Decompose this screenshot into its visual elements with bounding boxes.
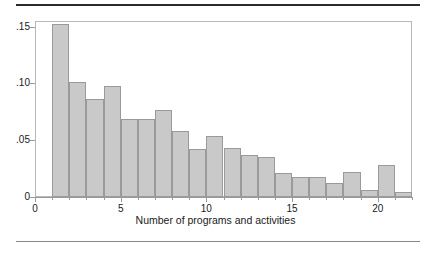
histogram-bar	[121, 119, 138, 197]
x-axis-minor-tick	[395, 197, 396, 200]
histogram-bar	[309, 177, 326, 197]
y-axis-tick-mark	[30, 83, 35, 84]
histogram-bar	[241, 155, 258, 197]
x-axis-minor-tick	[52, 197, 53, 200]
x-axis-minor-tick	[258, 197, 259, 200]
x-axis-minor-tick	[343, 197, 344, 200]
x-axis-minor-tick	[172, 197, 173, 200]
x-axis-minor-tick	[224, 197, 225, 200]
x-axis-minor-tick	[138, 197, 139, 200]
histogram-bar	[155, 110, 172, 197]
histogram-bar	[172, 131, 189, 197]
x-axis-minor-tick	[189, 197, 190, 200]
bottom-divider-rule	[16, 241, 420, 242]
histogram-bar	[378, 165, 395, 197]
histogram-bar	[224, 148, 241, 197]
x-axis-tick-label: 0	[32, 203, 38, 214]
x-axis-minor-tick	[69, 197, 70, 200]
y-axis-tick-mark	[30, 140, 35, 141]
histogram-bar	[292, 177, 309, 197]
histogram-bar	[138, 119, 155, 197]
x-axis-minor-tick	[326, 197, 327, 200]
histogram-bar	[258, 157, 275, 197]
x-axis-tick-label: 15	[286, 203, 297, 214]
histogram-bar	[52, 24, 69, 197]
histogram-bar	[206, 136, 223, 197]
top-divider-rule	[16, 4, 420, 6]
histogram-bar	[275, 173, 292, 197]
x-axis-title: Number of programs and activities	[0, 214, 431, 227]
x-axis-minor-tick	[155, 197, 156, 200]
x-axis-minor-tick	[412, 197, 413, 200]
x-axis-major-tick	[378, 197, 379, 202]
histogram-bar	[69, 82, 86, 197]
histogram-bar	[361, 190, 378, 197]
histogram-bar	[326, 183, 343, 197]
histogram-bar	[104, 86, 121, 197]
x-axis-tick-label: 10	[201, 203, 212, 214]
histogram-figure: .15.10.050 05101520 Number of programs a…	[0, 0, 431, 258]
x-axis-minor-tick	[86, 197, 87, 200]
y-axis-tick-label: .10	[16, 78, 30, 88]
x-axis-minor-tick	[241, 197, 242, 200]
x-axis-minor-tick	[104, 197, 105, 200]
x-axis-minor-tick	[309, 197, 310, 200]
x-axis-minor-tick	[275, 197, 276, 200]
y-axis-tick-label: .15	[16, 22, 30, 32]
y-axis-tick-label: .05	[16, 135, 30, 145]
x-axis-major-tick	[35, 197, 36, 202]
plot-area	[35, 21, 412, 197]
x-axis-major-tick	[292, 197, 293, 202]
histogram-bar	[86, 99, 103, 197]
histogram-bar	[189, 149, 206, 197]
x-axis-major-tick	[121, 197, 122, 202]
x-axis-major-tick	[206, 197, 207, 202]
y-axis-tick-mark	[30, 27, 35, 28]
x-axis-tick-label: 20	[372, 203, 383, 214]
x-axis-tick-label: 5	[118, 203, 124, 214]
histogram-bar	[343, 172, 360, 197]
x-axis-minor-tick	[361, 197, 362, 200]
